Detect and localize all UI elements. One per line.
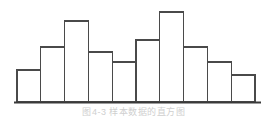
histogram-bar [65,21,89,102]
histogram-bar [41,47,65,102]
histogram-bar [184,47,208,102]
histogram-bars [17,12,255,102]
histogram-figure: 图4-3 样本数据的直方图 [0,0,268,119]
histogram-bar [88,52,112,102]
histogram-bar [136,40,160,102]
chart-plot-area [0,0,268,106]
histogram-bar [231,75,255,102]
histogram-bar [160,12,184,102]
figure-caption: 图4-3 样本数据的直方图 [0,106,268,119]
histogram-bar [17,70,41,102]
histogram-bar [207,62,231,102]
histogram-bar [112,62,136,102]
histogram-svg [0,0,268,106]
